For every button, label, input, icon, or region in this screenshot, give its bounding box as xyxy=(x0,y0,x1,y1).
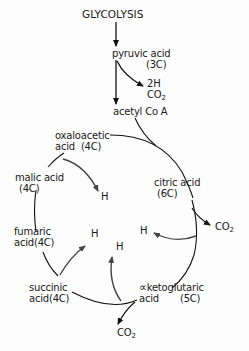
byproduct-2h: 2H xyxy=(147,78,160,89)
krebs-cycle-diagram: GLYCOLYSIS pyruvic acid (3C) 2H CO2 acet… xyxy=(0,0,249,351)
co2-subscript: 2 xyxy=(131,332,135,340)
oxaloacetic-acid-label-line1: oxaloacetic xyxy=(55,130,110,141)
ketoglutaric-word: ketoglutaric xyxy=(147,282,204,293)
arrow-malic-to-h xyxy=(63,159,98,191)
cycle-arc-malic-to-oxaloacetic xyxy=(48,153,64,167)
h-from-ketoglutaric: H xyxy=(116,241,123,252)
fumaric-carbons: (4C) xyxy=(34,237,54,248)
arrow-ketoglutaric-to-h xyxy=(111,257,121,301)
h-from-citric: H xyxy=(140,225,147,236)
pyruvic-acid-carbons: (3C) xyxy=(146,59,166,70)
cycle-arc-succinic-to-fumaric xyxy=(43,252,58,276)
byproduct-co2: CO2 xyxy=(147,89,166,100)
h-from-succinic: H xyxy=(91,228,98,239)
malic-acid-carbons: (4C) xyxy=(19,183,39,194)
ketoglutaric-acid-label-line1: ∝ketoglutaric xyxy=(139,282,204,293)
oxaloacetic-acid-label-line2: acid (4C) xyxy=(55,141,101,152)
co2-text: CO xyxy=(215,221,229,232)
arrow-succinic-to-h-left xyxy=(60,246,85,275)
ketoglutaric-carbons: (5C) xyxy=(180,293,200,304)
succinic-acid-label-line1: succinic xyxy=(29,282,67,293)
co2-from-ketoglutaric: CO2 xyxy=(117,327,136,338)
succinic-acid-word: acid xyxy=(29,293,49,304)
succinic-acid-label-line2: acid(4C) xyxy=(29,293,69,304)
line-acetyl-coa-into-cycle xyxy=(135,118,156,146)
co2-subscript: 2 xyxy=(161,94,165,102)
ketoglutaric-acid-label-line2: acid(5C) xyxy=(139,293,200,304)
fumaric-acid-word: acid xyxy=(14,237,34,248)
citric-acid-carbons: (6C) xyxy=(157,188,177,199)
pyruvic-acid-label: pyruvic acid xyxy=(112,48,170,59)
fumaric-acid-label-line1: fumaric xyxy=(14,226,51,237)
glycolysis-label: GLYCOLYSIS xyxy=(82,9,143,20)
co2-text: CO xyxy=(147,89,161,100)
co2-from-citric: CO2 xyxy=(215,221,234,232)
co2-subscript: 2 xyxy=(229,226,233,234)
cycle-arc-oxaloacetic-to-citric xyxy=(110,135,193,198)
malic-acid-label: malic acid xyxy=(15,172,64,183)
h-from-malic: H xyxy=(101,191,108,202)
arrow-pyruvic-to-byproducts xyxy=(117,61,143,86)
arrow-citric-to-h xyxy=(154,233,196,239)
oxaloacetic-carbons: (4C) xyxy=(81,141,101,152)
citric-acid-label: citric acid xyxy=(154,177,200,188)
co2-text: CO xyxy=(117,327,131,338)
ketoglutaric-acid-word: acid xyxy=(139,293,159,304)
oxaloacetic-acid-word: acid xyxy=(55,141,75,152)
fumaric-acid-label-line2: acid(4C) xyxy=(14,237,54,248)
cycle-arc-ketoglutaric-to-succinic xyxy=(72,292,137,305)
arrow-ketoglutaric-to-co2 xyxy=(118,302,135,324)
cycle-arc-citric-to-ketoglutaric xyxy=(172,200,197,288)
succinic-carbons: (4C) xyxy=(49,293,69,304)
acetyl-coa-label: acetyl Co A xyxy=(113,106,168,117)
